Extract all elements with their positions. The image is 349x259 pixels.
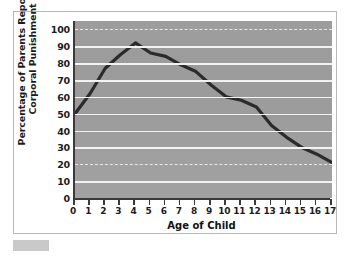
x-tick-1 (88, 199, 90, 205)
x-tick-11 (239, 199, 241, 205)
chart-figure: Percentage of Parents Reporting Corporal… (0, 0, 349, 259)
x-tick-6 (164, 199, 166, 205)
gridline-50 (75, 114, 332, 116)
y-tick-label-30: 30 (44, 142, 70, 153)
y-axis-title-line-2: Corporal Punishment (27, 0, 38, 149)
gridline-90 (75, 46, 332, 48)
x-tick-8 (194, 199, 196, 205)
gridline-30 (75, 147, 332, 149)
y-axis-title: Percentage of Parents Reporting Corporal… (16, 0, 38, 149)
gridline-dashed-100 (75, 29, 332, 30)
gridline-10 (75, 181, 332, 183)
x-tick-7 (179, 199, 181, 205)
x-tick-3 (118, 199, 120, 205)
plot-area (73, 21, 332, 198)
gridline-dashed-20 (75, 164, 332, 165)
y-tick-label-80: 80 (44, 58, 70, 69)
plot-inner (75, 21, 332, 198)
x-tick-17 (330, 199, 332, 205)
y-axis-tick-labels: 0102030405060708090100 (44, 21, 70, 198)
x-tick-15 (300, 199, 302, 205)
x-tick-16 (315, 199, 317, 205)
gridline-70 (75, 80, 332, 82)
y-tick-label-60: 60 (44, 91, 70, 102)
y-tick-label-40: 40 (44, 125, 70, 136)
x-tick-label-17: 17 (320, 206, 340, 216)
y-tick-label-90: 90 (44, 41, 70, 52)
y-axis-title-line-1: Percentage of Parents Reporting (16, 0, 27, 149)
y-tick-label-10: 10 (44, 176, 70, 187)
x-tick-10 (224, 199, 226, 205)
x-tick-9 (209, 199, 211, 205)
x-axis-line (73, 198, 330, 200)
x-tick-12 (254, 199, 256, 205)
y-tick-label-0: 0 (44, 193, 70, 204)
y-tick-label-70: 70 (44, 75, 70, 86)
x-tick-4 (133, 199, 135, 205)
y-tick-label-100: 100 (44, 24, 70, 35)
gridline-40 (75, 131, 332, 133)
x-tick-5 (149, 199, 151, 205)
y-tick-label-50: 50 (44, 108, 70, 119)
corner-swatch (13, 240, 49, 251)
x-tick-14 (285, 199, 287, 205)
x-tick-2 (103, 199, 105, 205)
x-axis-title: Age of Child (73, 220, 330, 231)
x-tick-13 (270, 199, 272, 205)
y-tick-label-20: 20 (44, 159, 70, 170)
gridline-60 (75, 97, 332, 99)
x-tick-0 (73, 199, 75, 205)
gridline-80 (75, 63, 332, 65)
